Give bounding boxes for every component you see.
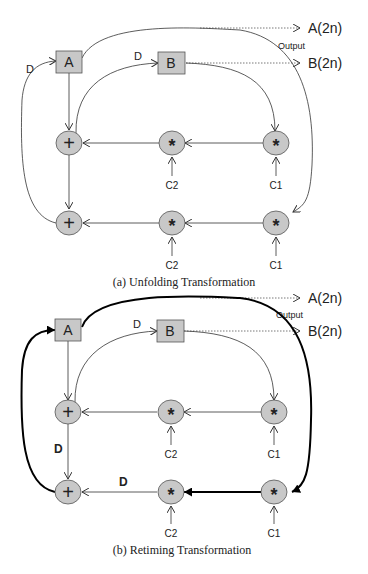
svg-text:+: + (63, 212, 75, 234)
svg-text:*: * (270, 405, 277, 425)
unfolding-diagram: A(2n) B(2n) Output A B D D + (21, 20, 342, 289)
svg-text:*: * (270, 485, 277, 505)
output-label: Output (278, 41, 306, 51)
edge-b-to-mult1 (186, 63, 275, 131)
svg-text:+: + (62, 401, 74, 423)
svg-text:B: B (165, 323, 174, 339)
coeff-label: C1 (270, 180, 283, 191)
delay-label-bold: D (54, 442, 63, 456)
diagram-canvas: A(2n) B(2n) Output A B D D + (0, 0, 368, 574)
edge-adder1-to-b (76, 63, 158, 133)
svg-text:C2: C2 (165, 449, 178, 460)
output-b-label: B(2n) (308, 323, 342, 339)
caption-b: (b) Retiming Transformation (113, 543, 252, 557)
output-a-label: A(2n) (308, 20, 342, 36)
caption-a: (a) Unfolding Transformation (113, 275, 256, 289)
retiming-diagram: A(2n) B(2n) Output A B D D D + * * C2 C1 (21, 290, 342, 557)
svg-text:C1: C1 (268, 528, 281, 539)
register-b-label: B (166, 55, 175, 71)
svg-text:A: A (63, 322, 73, 338)
coeff-label: C1 (270, 260, 283, 271)
svg-text:*: * (167, 485, 174, 505)
register-a-label: A (64, 54, 74, 70)
delay-label: D (134, 50, 142, 62)
delay-label-bold: D (119, 475, 128, 489)
svg-text:+: + (62, 481, 74, 503)
output-b-label: B(2n) (308, 55, 342, 71)
edge-adder2-to-a-bold (21, 330, 55, 492)
output-a-label: A(2n) (308, 290, 342, 306)
delay-label: D (133, 318, 141, 330)
svg-text:*: * (167, 405, 174, 425)
svg-text:*: * (168, 136, 175, 156)
delay-label: D (26, 63, 34, 75)
svg-text:*: * (272, 136, 279, 156)
coeff-label: C2 (166, 180, 179, 191)
svg-text:C2: C2 (165, 528, 178, 539)
edge-a-to-mult2-bold (82, 296, 311, 492)
svg-text:+: + (63, 132, 75, 154)
svg-text:*: * (168, 216, 175, 236)
svg-text:C1: C1 (268, 449, 281, 460)
edge-adder2-to-a (21, 61, 56, 223)
svg-text:*: * (272, 216, 279, 236)
coeff-label: C2 (166, 260, 179, 271)
